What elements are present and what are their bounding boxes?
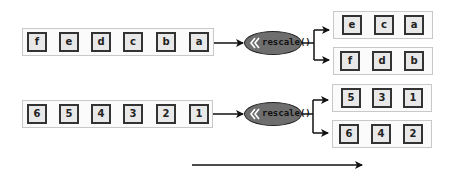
cell: 2 <box>403 124 423 144</box>
cell: a <box>189 32 209 52</box>
cell: 3 <box>372 88 392 108</box>
cell: 2 <box>156 104 176 124</box>
output-group-1a: e c a <box>333 11 433 39</box>
output-group-2b: 6 4 2 <box>332 120 432 148</box>
cell: f <box>340 51 360 71</box>
output-group-1b: f d b <box>333 47 433 75</box>
cell: 3 <box>123 104 143 124</box>
cell: 6 <box>339 124 359 144</box>
operation-label: rescale() <box>262 37 311 47</box>
double-chevron-left-icon <box>249 37 261 49</box>
input-group-letters: f e d c b a <box>22 28 214 56</box>
cell: 6 <box>27 104 47 124</box>
cell: d <box>91 32 111 52</box>
cell: c <box>374 15 394 35</box>
input-group-numbers: 6 5 4 3 2 1 <box>22 100 213 128</box>
cell: 1 <box>189 104 209 124</box>
cell: c <box>123 32 143 52</box>
cell: 1 <box>403 88 423 108</box>
cell: b <box>404 51 424 71</box>
cell: 4 <box>91 104 111 124</box>
cell: 5 <box>341 88 361 108</box>
cell: e <box>59 32 79 52</box>
cell: a <box>404 15 424 35</box>
output-group-2a: 5 3 1 <box>332 84 432 112</box>
cell: 5 <box>59 104 79 124</box>
cell: b <box>156 32 176 52</box>
rescale-operation-1: rescale() <box>244 31 302 55</box>
cell: f <box>27 32 47 52</box>
rescale-operation-2: rescale() <box>244 102 302 126</box>
cell: 4 <box>371 124 391 144</box>
cell: d <box>372 51 392 71</box>
cell: e <box>342 15 362 35</box>
double-chevron-left-icon <box>249 108 261 120</box>
operation-label: rescale() <box>262 108 311 118</box>
